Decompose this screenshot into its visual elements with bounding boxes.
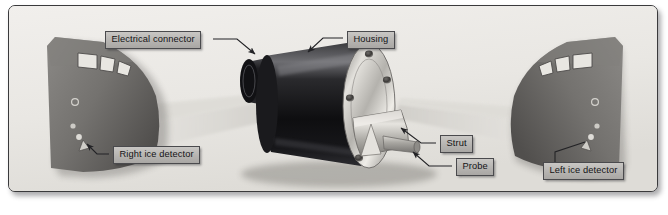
label-left-ice-detector[interactable]: Left ice detector bbox=[543, 162, 624, 180]
label-probe[interactable]: Probe bbox=[456, 158, 494, 176]
label-housing[interactable]: Housing bbox=[347, 31, 395, 49]
bolt-hole bbox=[365, 51, 373, 58]
label-right-ice-detector[interactable]: Right ice detector bbox=[113, 146, 200, 164]
label-strut[interactable]: Strut bbox=[440, 135, 473, 153]
bolt-hole bbox=[346, 95, 354, 102]
detector-marker-probe-right bbox=[588, 134, 594, 140]
probe-tip bbox=[414, 141, 420, 152]
detector-marker-probe-left bbox=[76, 134, 82, 140]
screenshot-root: system detector the aircraft ice accreti… bbox=[0, 0, 668, 215]
ice-detector-figure: system detector the aircraft ice accreti… bbox=[8, 5, 658, 192]
detector-marker-mid-left bbox=[70, 123, 75, 128]
detector-marker-mid-right bbox=[594, 123, 599, 128]
bolt-hole bbox=[383, 77, 391, 84]
assembly-shadow bbox=[241, 161, 437, 187]
label-electrical-connector[interactable]: Electrical connector bbox=[105, 31, 201, 49]
housing-left-cap bbox=[256, 55, 278, 153]
